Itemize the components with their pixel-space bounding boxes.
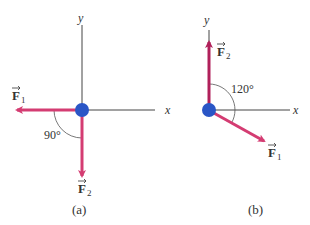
svg-text:F: F: [217, 44, 225, 59]
panel-b-x-label: x: [292, 103, 299, 117]
svg-text:F: F: [268, 145, 276, 160]
panel-a-x-label: x: [164, 103, 171, 117]
panel-b-caption: (b): [248, 202, 263, 217]
panel-a-particle: [75, 103, 89, 117]
svg-text:F: F: [12, 88, 20, 103]
panel-b-f1-label: F 1: [268, 143, 282, 162]
svg-text:F: F: [78, 181, 86, 196]
svg-text:2: 2: [226, 51, 231, 61]
svg-text:1: 1: [277, 152, 282, 162]
panel-b-angle-label: 120°: [231, 82, 254, 96]
svg-text:2: 2: [87, 188, 92, 198]
svg-text:1: 1: [21, 95, 26, 105]
panel-a-angle-label: 90°: [44, 128, 61, 142]
force-diagram: y 90° F 1 F 2 (a) x y x 120°: [0, 0, 310, 225]
panel-b: y x 120° F 2 F 1 (b): [202, 13, 299, 217]
panel-b-particle: [202, 103, 216, 117]
panel-a-f2-label: F 2: [78, 179, 92, 198]
panel-a-f1-label: F 1: [12, 86, 26, 105]
panel-a-caption: (a): [72, 202, 86, 217]
panel-a-y-label: y: [77, 11, 84, 25]
panel-b-y-label: y: [203, 13, 210, 27]
panel-b-f2-label: F 2: [217, 42, 231, 61]
panel-a: y 90° F 1 F 2 (a): [12, 11, 155, 217]
panel-b-f1-arrow: [212, 112, 264, 141]
